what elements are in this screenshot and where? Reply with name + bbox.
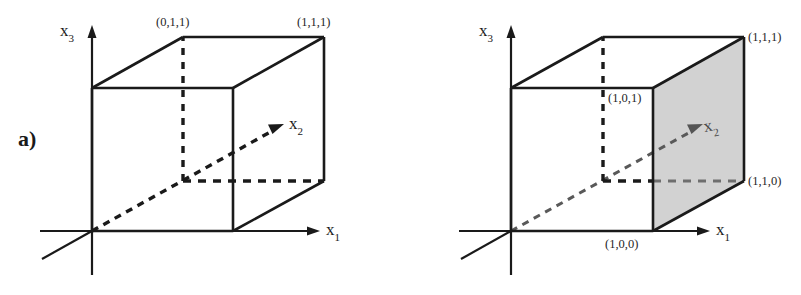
vertex-label-111-b: (1,1,1) (748, 31, 781, 44)
axis-label-x1-base-a: x (326, 220, 335, 239)
axis-label-x3-sub-a: 3 (69, 32, 75, 44)
axis-x2-arrowhead (268, 124, 284, 134)
vertex-label-100-b: (1,0,0) (605, 238, 638, 251)
axis-label-x1-a: x1 (326, 221, 340, 241)
axis-x2 (92, 124, 284, 231)
axis-x1-arrowhead (697, 227, 710, 236)
axis-label-x1-base-b: x (716, 220, 725, 239)
vertex-label-110-b: (1,1,0) (748, 175, 781, 188)
axis-label-x3-b: x3 (479, 22, 493, 42)
axis-label-x2-sub-a: 2 (298, 125, 304, 137)
axis-label-x1-b: x1 (716, 221, 730, 241)
cube-diagram-a (0, 0, 400, 295)
figure-root: a) (0,1,1) (1,1,1) x3 x2 x1 (0, 0, 801, 295)
panel-a: a) (0,1,1) (1,1,1) x3 x2 x1 (0, 0, 400, 295)
axis-label-x2-base-a: x (289, 114, 298, 133)
cube-diagram-b (400, 0, 801, 295)
axis-x1-arrowhead (307, 227, 320, 236)
axis-x3-arrowhead (507, 25, 516, 38)
axis-label-x3-base-a: x (60, 21, 69, 40)
axis-label-x1-sub-a: 1 (335, 231, 341, 243)
panel-label-a: a) (18, 128, 36, 150)
axis-label-x2-a: x2 (289, 115, 303, 135)
axis-x2-negative-ray (42, 231, 92, 259)
vertex-label-101-b: (1,0,1) (608, 92, 641, 105)
panel-b: b) (1,1,1) (1,0,1) (1,1,0) (1,0,0) x3 x2… (400, 0, 801, 295)
cube-hidden-edges-a (183, 37, 324, 181)
axis-label-x3-a: x3 (60, 22, 74, 42)
axis-x3-arrowhead (88, 25, 97, 38)
axis-label-x1-sub-b: 1 (725, 231, 731, 243)
axis-label-x3-base-b: x (479, 21, 488, 40)
axis-x2-negative-ray (461, 231, 511, 259)
vertex-label-011-a: (0,1,1) (156, 16, 189, 29)
shaded-face-x1-equals-1 (653, 37, 744, 231)
axis-label-x3-sub-b: 3 (488, 32, 494, 44)
vertex-label-111-a: (1,1,1) (297, 16, 330, 29)
